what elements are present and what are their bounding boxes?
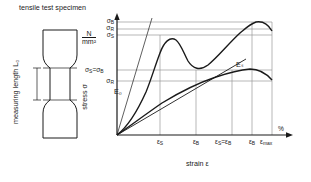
specimen-drawing <box>33 30 77 138</box>
y-tick-sigma-s-eq-sigma-b: σS=σB <box>85 66 104 74</box>
x-axis-unit: % <box>278 125 284 132</box>
measuring-length-dimension <box>33 68 41 100</box>
x-tick-eps-max: εmax <box>260 138 272 146</box>
y-tick-sigma-s: σS <box>88 31 114 39</box>
e0-label: E₀ <box>114 88 122 96</box>
es-label: Eₛ <box>236 61 244 69</box>
stress-strain-diagram <box>0 0 311 182</box>
page-title: tensile test specimen <box>19 4 86 12</box>
measuring-length-label: measuring length L₀ <box>12 49 20 135</box>
specimen-outline <box>43 30 77 138</box>
lower-stress-strain-curve <box>117 69 272 135</box>
y-unit-denominator: mm² <box>82 38 96 45</box>
modulus-lines <box>117 18 246 135</box>
x-tick-eps-s: εS <box>145 138 175 146</box>
x-tick-eps-b: εB <box>181 138 211 146</box>
y-tick-sigma-r-lower: σR <box>88 77 114 85</box>
x-axis-label: strain ε <box>186 160 209 168</box>
y-axis-arrow <box>114 13 119 20</box>
x-axis-arrow <box>286 132 293 137</box>
x-tick-eps-s-eq-eps-b: εS=εB <box>215 138 231 146</box>
